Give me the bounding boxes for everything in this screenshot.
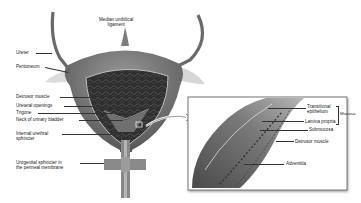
label-detrusor-muscle-inset: Detrusor muscle <box>295 139 328 144</box>
label-internal-urethral-sphincter: Internal urethral sphincter <box>16 131 48 141</box>
leader-line <box>268 108 306 109</box>
leader-line <box>80 163 104 164</box>
label-neck-of-urinary-bladder: Neck of urinary bladder <box>16 117 64 122</box>
leader-line <box>79 120 123 121</box>
label-trigone: Trigone <box>16 110 31 115</box>
leader-line <box>262 121 304 122</box>
leader-line <box>244 164 284 165</box>
label-peritoneum: Peritoneum <box>16 64 40 69</box>
leader-line <box>38 113 126 114</box>
right-ureter <box>178 15 203 66</box>
label-line: the perineal membrane <box>16 165 63 170</box>
label-median-umbilical-ligament: Median umbilical ligament <box>99 17 133 27</box>
leader-line <box>62 134 122 135</box>
label-ureter: Ureter <box>16 50 29 55</box>
label-transitional-epithelium: Transitional epithelium <box>307 105 331 115</box>
label-line: ligament <box>99 22 133 27</box>
leader-line <box>276 141 294 142</box>
label-detrusor-muscle: Detrusor muscle <box>16 94 49 99</box>
label-lamina-propria: Lamina propria <box>305 119 336 124</box>
label-line: epithelium <box>307 110 331 115</box>
label-submucosa: Submucosa <box>309 127 333 132</box>
median-umbilical-ligament <box>121 27 129 46</box>
leader-line <box>64 106 120 107</box>
left-ureter <box>52 12 68 68</box>
leader-line <box>36 53 52 54</box>
bladder-illustration <box>0 0 361 203</box>
label-urogenital-sphincter: Urogenital sphincter in the perineal mem… <box>16 160 63 170</box>
label-line: sphincter <box>16 136 48 141</box>
label-ureteral-openings: Ureteral openings <box>16 103 52 108</box>
leader-line <box>60 97 90 98</box>
mucosa-bracket <box>336 106 339 125</box>
label-adventitia: Adventitia <box>286 161 306 166</box>
label-mucosa: Mucosa <box>340 111 355 116</box>
bladder-diagram: Median umbilical ligament Ureter Periton… <box>0 0 361 203</box>
leader-line <box>260 130 308 131</box>
